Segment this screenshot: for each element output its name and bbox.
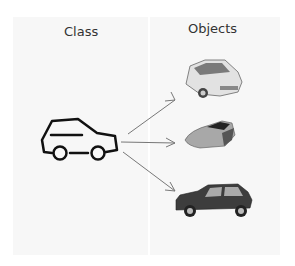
arrow-to-object-1 (128, 100, 175, 134)
arrow-to-object-2 (121, 142, 175, 143)
arrow-to-object-3 (123, 152, 175, 191)
arrows (121, 92, 175, 191)
car-outline-icon (42, 119, 117, 160)
silver-sports-car-icon (185, 121, 235, 148)
white-hatchback-car-icon (186, 60, 242, 98)
dark-sedan-car-icon (176, 184, 252, 217)
